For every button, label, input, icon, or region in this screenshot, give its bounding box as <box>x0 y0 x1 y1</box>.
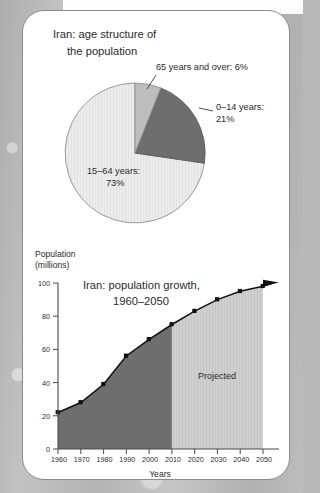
pie-callout-young-line2: 21% <box>216 114 234 124</box>
x-axis-label: Years <box>149 469 171 479</box>
y-tick-60: 60 <box>42 345 50 354</box>
pie-callout-young-line1: 0–14 years: <box>216 102 264 112</box>
pie-callout-working-line1: 15–64 years: <box>87 166 140 176</box>
y-axis-ticks <box>53 283 58 449</box>
pie-title-line2: the population <box>67 45 137 57</box>
x-tick-2030: 2030 <box>210 455 226 464</box>
x-tick-1990: 1990 <box>119 455 135 464</box>
x-tick-1970: 1970 <box>74 455 90 464</box>
y-tick-80: 80 <box>42 312 50 321</box>
x-axis-tick-labels: 1960 1970 1980 1990 2000 2010 2020 2030 … <box>51 455 272 464</box>
line-title-line1: Iran: population growth, <box>83 279 200 291</box>
y-tick-20: 20 <box>42 412 50 421</box>
x-tick-1980: 1980 <box>97 455 113 464</box>
y-axis-label-line2: (millions) <box>35 260 70 270</box>
pie-chart: Iran: age structure of the population 65… <box>23 11 290 243</box>
figure-card: Iran: age structure of the population 65… <box>22 10 290 480</box>
x-axis-ticks <box>58 449 263 454</box>
y-tick-40: 40 <box>42 379 50 388</box>
x-tick-2000: 2000 <box>142 455 158 464</box>
y-tick-100: 100 <box>38 279 50 288</box>
leader-line-young <box>199 108 213 111</box>
area-actual <box>58 325 172 450</box>
population-growth-chart: Population (millions) Iran: population g… <box>23 241 290 480</box>
area-projected <box>172 286 263 449</box>
pie-title-line1: Iran: age structure of <box>53 28 157 40</box>
x-tick-1960: 1960 <box>51 455 67 464</box>
x-tick-2050: 2050 <box>256 455 272 464</box>
pie-callout-working-line2: 73% <box>106 178 124 188</box>
line-title-line2: 1960–2050 <box>113 295 169 307</box>
x-tick-2040: 2040 <box>233 455 249 464</box>
y-axis-label-line1: Population <box>35 249 76 259</box>
x-tick-2020: 2020 <box>188 455 204 464</box>
pie-callout-elderly: 65 years and over: 6% <box>156 62 248 72</box>
y-tick-0: 0 <box>46 445 50 454</box>
x-tick-2010: 2010 <box>165 455 181 464</box>
y-axis-tick-labels: 100 80 60 40 20 0 <box>38 279 50 454</box>
projected-label: Projected <box>198 371 236 381</box>
